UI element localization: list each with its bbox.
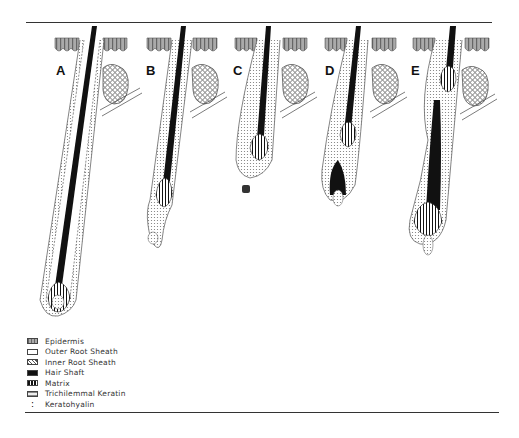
panel-label-b: B <box>146 63 155 78</box>
panel-b <box>147 26 227 248</box>
panel-label-e: E <box>411 63 420 78</box>
legend-item-epidermis: Epidermis <box>27 336 126 346</box>
inner-root-sheath-swatch-icon <box>27 359 38 365</box>
panel-label-c: C <box>233 63 242 78</box>
outer-root-sheath-swatch-icon <box>27 349 38 355</box>
epidermis-swatch-icon <box>27 338 38 344</box>
bottom-rule <box>25 412 499 413</box>
hair-follicle-diagram <box>0 0 519 330</box>
legend-item-keratohyalin: :Keratohyalin <box>27 399 126 409</box>
keratohyalin-dots-icon: : <box>27 401 38 407</box>
panel-label-a: A <box>56 63 65 78</box>
legend-item-trichilemmal-keratin: Trichilemmal Keratin <box>27 389 126 399</box>
matrix-swatch-icon <box>27 380 38 386</box>
panel-e <box>409 26 497 255</box>
panel-c <box>235 26 317 193</box>
legend: Epidermis Outer Root Sheath Inner Root S… <box>27 336 126 410</box>
legend-item-inner-root-sheath: Inner Root Sheath <box>27 357 126 367</box>
trichilemmal-keratin-swatch-icon <box>27 391 38 397</box>
panel-d <box>322 26 407 206</box>
legend-item-hair-shaft: Hair Shaft <box>27 368 126 378</box>
legend-item-matrix: Matrix <box>27 378 126 388</box>
hair-shaft-swatch-icon <box>27 370 38 376</box>
panel-label-d: D <box>325 63 334 78</box>
legend-item-outer-root-sheath: Outer Root Sheath <box>27 347 126 357</box>
